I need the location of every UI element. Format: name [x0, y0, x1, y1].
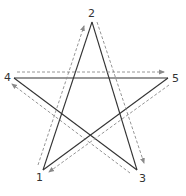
vertex-label-3: 3: [139, 172, 146, 185]
pentagram-svg: 12345: [0, 0, 186, 196]
stroke-arrow-3-to-4: [12, 84, 130, 173]
pentagram-diagram: 12345: [0, 0, 186, 196]
vertex-labels: 12345: [4, 7, 179, 185]
star-edge-5-1: [43, 78, 168, 170]
stroke-arrow-1-to-2: [38, 26, 84, 165]
vertex-label-5: 5: [172, 72, 179, 85]
star-edge-1-2: [43, 22, 92, 170]
star-edge-3-4: [14, 78, 137, 170]
vertex-label-2: 2: [88, 7, 95, 20]
vertex-label-4: 4: [4, 71, 11, 84]
star-edge-2-3: [92, 22, 137, 170]
vertex-label-1: 1: [36, 171, 43, 184]
stroke-arrow-2-to-3: [97, 22, 144, 163]
dashed-stroke-arrows: [12, 22, 169, 173]
solid-star-edges: [14, 22, 168, 170]
